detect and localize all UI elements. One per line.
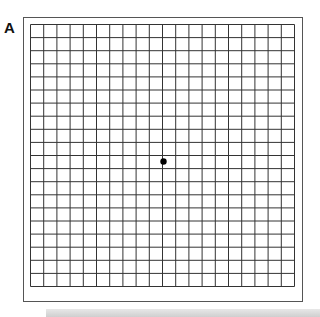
bottom-bar bbox=[46, 309, 320, 317]
amsler-grid bbox=[30, 24, 295, 287]
panel-label: A bbox=[4, 19, 15, 36]
fixation-dot bbox=[160, 158, 166, 164]
